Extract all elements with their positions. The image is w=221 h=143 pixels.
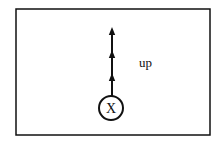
arrowhead-up-icon	[109, 27, 115, 35]
arrowhead-up-icon	[109, 73, 115, 81]
arrowhead-up-icon	[109, 50, 115, 58]
particle-symbol: X	[106, 101, 116, 116]
motion-diagram: X up	[0, 0, 221, 143]
particle: X	[99, 96, 123, 120]
direction-label: up	[139, 55, 152, 70]
